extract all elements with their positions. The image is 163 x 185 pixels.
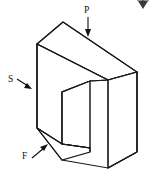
load-label-F: F [22,152,27,162]
block-right-front-face [108,72,137,168]
load-label-P: P [84,6,89,16]
cropped-arrow-glyph-head [138,1,148,9]
load-arrow-S [17,79,32,89]
load-arrow-F [32,144,48,158]
cropped-arrow-glyph [137,0,149,9]
load-arrow-P-head [85,29,91,37]
load-arrow-F-shaft [32,148,44,158]
isometric-block-figure: P S F [0,0,163,185]
load-arrow-P [85,17,91,37]
load-label-S: S [8,75,13,85]
notch-inner-face [62,81,90,148]
